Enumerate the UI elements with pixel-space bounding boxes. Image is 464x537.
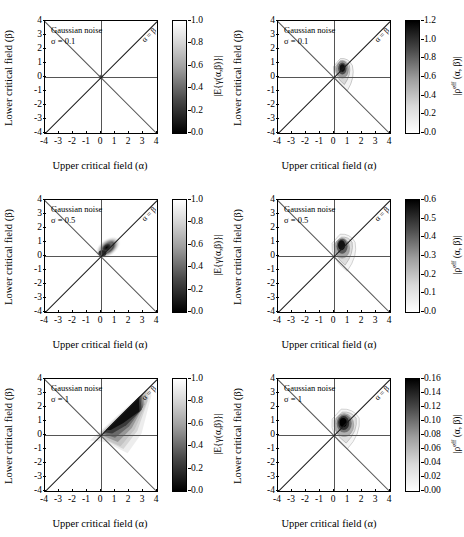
x-tick-label: 3 [140,315,145,325]
x-tick-label: -1 [82,494,90,504]
y-tick-mark [43,434,46,435]
y-tick-mark [43,448,46,449]
noise-annotation-line1: Gaussian noise [284,383,335,394]
noise-annotation-line2: σ = 0.1 [51,36,102,47]
colorbar-tick-label: 0.14 [424,387,441,397]
y-tick-mark [276,406,279,407]
y-tick-mark [43,213,46,214]
y-tick-label: -3 [267,292,275,302]
x-tick-mark [305,310,306,313]
colorbar-tick-mark [421,57,424,58]
x-tick-mark [128,310,129,313]
y-tick-label: -4 [34,306,42,316]
colorbar-tick-mark [188,468,191,469]
y-tick-mark [43,255,46,256]
y-tick-mark [276,434,279,435]
x-tick-label: 3 [140,136,145,146]
x-axis-label: Upper critical field (α) [30,518,170,529]
x-tick-mark [114,131,115,134]
colorbar-gradient [406,379,419,491]
y-tick-label: -4 [267,127,275,137]
x-tick-mark [58,310,59,313]
x-tick-label: 4 [387,494,392,504]
x-tick-mark [72,131,73,134]
y-tick-mark [276,104,279,105]
x-tick-label: -3 [54,315,62,325]
colorbar-tick-mark [421,95,424,96]
noise-annotation: Gaussian noiseσ = 1 [51,383,102,405]
x-tick-label: 3 [373,315,378,325]
x-tick-label: 2 [126,315,131,325]
y-tick-label: 2 [37,43,42,53]
panel-rho-sigma-0p5: Lower critical field (β)Upper critical f… [229,179,458,358]
x-tick-labels: -4-3-2-101234 [44,313,156,325]
colorbar-tick-label: 0.4 [191,440,203,450]
colorbar-tick-mark [421,39,424,40]
x-tick-label: 4 [387,315,392,325]
x-tick-mark [347,310,348,313]
colorbar-tick-mark [421,406,424,407]
y-tick-label: -4 [34,127,42,137]
y-tick-label: -2 [34,99,42,109]
y-tick-label: -3 [34,471,42,481]
x-tick-mark [128,489,129,492]
colorbar-label: |ρeff (α, β)| [447,20,460,132]
plot-area: α = βGaussian noiseσ = 0.5 [44,199,158,313]
colorbar-tick-label: 0.8 [191,37,203,47]
y-tick-label: 4 [270,373,275,383]
plot-area: α = βGaussian noiseσ = 0.1 [44,20,158,134]
y-tick-label: 3 [270,387,275,397]
y-tick-label: 0 [270,71,275,81]
noise-annotation-line1: Gaussian noise [51,204,102,215]
y-tick-mark [276,34,279,35]
colorbar-tick-mark [421,236,424,237]
y-tick-mark [43,104,46,105]
x-tick-labels: -4-3-2-101234 [44,492,156,504]
y-tick-mark [276,255,279,256]
colorbar-tick-label: 0.0 [191,127,203,137]
x-tick-label: 3 [373,494,378,504]
colorbar-tick-mark [421,113,424,114]
x-tick-label: -2 [301,315,309,325]
y-axis-label: Lower critical field (β) [2,374,16,498]
noise-annotation-line2: σ = 0.1 [284,36,335,47]
x-tick-label: 0 [98,315,103,325]
y-tick-mark [276,269,279,270]
x-tick-mark [100,310,101,313]
x-tick-label: 1 [112,136,117,146]
colorbar-label: |ρeff (α, β)| [447,199,460,311]
y-tick-mark [276,420,279,421]
y-tick-label: 1 [37,57,42,67]
colorbar-tick-label: 0.6 [191,239,203,249]
y-tick-label: 2 [270,401,275,411]
colorbar-gradient [173,21,186,133]
y-tick-label: -4 [267,306,275,316]
colorbar-tick-labels: 0.160.140.120.100.080.060.040.020.00 [421,378,445,490]
x-axis-label: Upper critical field (α) [259,160,399,171]
x-tick-label: 4 [154,494,159,504]
y-tick-label: 1 [270,57,275,67]
colorbar-tick-mark [421,420,424,421]
colorbar-tick-mark [421,392,424,393]
y-tick-mark [43,62,46,63]
x-tick-mark [319,489,320,492]
y-tick-label: 3 [270,208,275,218]
x-tick-label: 0 [331,494,336,504]
y-tick-labels: 43210-1-2-3-4 [24,20,42,132]
x-tick-labels: -4-3-2-101234 [44,134,156,146]
noise-annotation: Gaussian noiseσ = 0.1 [51,25,102,47]
x-tick-mark [72,310,73,313]
colorbar-tick-mark [188,221,191,222]
x-tick-labels: -4-3-2-101234 [277,492,389,504]
panel-rho-sigma-1: Lower critical field (β)Upper critical f… [229,358,458,537]
colorbar-tick-mark [421,76,424,77]
y-tick-label: -1 [34,264,42,274]
noise-annotation: Gaussian noiseσ = 0.1 [284,25,335,47]
colorbar-tick-mark [421,311,424,312]
y-tick-mark [276,297,279,298]
y-tick-mark [276,62,279,63]
y-tick-mark [43,490,46,491]
y-tick-mark [43,76,46,77]
colorbar-tick-label: 0.2 [191,284,203,294]
